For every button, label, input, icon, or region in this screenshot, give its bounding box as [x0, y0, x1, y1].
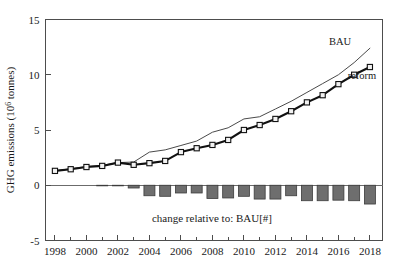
y-axis-title-tail: tonnes)	[4, 67, 17, 102]
bar-2001	[97, 185, 108, 186]
marker-reform-2001	[100, 163, 105, 168]
bar-2012	[270, 185, 281, 199]
marker-reform-2005	[163, 158, 168, 163]
x-tick-label-2014: 2014	[296, 245, 319, 257]
x-tick-label-2016: 2016	[327, 245, 350, 257]
bar-2003	[128, 185, 139, 188]
bar-2013	[286, 185, 297, 196]
chart-figure: -5051015 1998200020022004200620082010201…	[0, 0, 400, 271]
ghg-emissions-chart: -5051015 1998200020022004200620082010201…	[0, 0, 400, 271]
marker-reform-2000	[84, 164, 89, 169]
bar-2009	[223, 185, 234, 198]
bar-2002	[112, 185, 123, 186]
y-tick-label-0: 0	[34, 179, 40, 191]
x-tick-label-2012: 2012	[264, 245, 286, 257]
bar-2008	[207, 185, 218, 198]
bar-series-change-relative-to-bau	[97, 185, 376, 204]
marker-reform-2011	[257, 122, 262, 127]
y-tick-label-5: 5	[34, 124, 40, 136]
bar-2015	[317, 185, 328, 200]
marker-reform-2018	[367, 64, 372, 69]
x-tick-label-2002: 2002	[107, 245, 129, 257]
y-tick-label-15: 15	[29, 14, 41, 26]
plot-frame	[46, 20, 383, 241]
marker-reform-2014	[304, 100, 309, 105]
series-label-reform: reform	[348, 70, 377, 81]
x-tick-label-2006: 2006	[170, 245, 193, 257]
y-tick-label--5: -5	[30, 235, 40, 247]
bar-2011	[254, 185, 265, 199]
y-axis-title: GHG emissions (106 tonnes)	[4, 67, 18, 194]
bar-2014	[301, 185, 312, 200]
bar-2004	[144, 185, 155, 196]
marker-reform-2009	[226, 137, 231, 142]
bar-2005	[160, 185, 171, 196]
series-label-bau: BAU	[329, 36, 352, 47]
x-tick-label-2004: 2004	[138, 245, 161, 257]
marker-reform-2015	[320, 93, 325, 98]
bar-2006	[175, 185, 186, 193]
marker-reform-2010	[241, 127, 246, 132]
marker-reform-2003	[131, 162, 136, 167]
x-tick-label-2008: 2008	[201, 245, 224, 257]
marker-reform-2004	[147, 161, 152, 166]
x-tick-label-2000: 2000	[75, 245, 98, 257]
marker-reform-2006	[178, 150, 183, 155]
svg-text:GHG emissions (106 tonnes): GHG emissions (106 tonnes)	[4, 67, 18, 194]
bar-2016	[333, 185, 344, 200]
marker-reform-1998	[52, 168, 57, 173]
bars-annotation-label: change relative to: BAU[#]	[152, 212, 272, 224]
series-line-reform	[55, 67, 370, 171]
marker-reform-2013	[289, 109, 294, 114]
bar-2007	[191, 185, 202, 193]
marker-reform-2007	[194, 146, 199, 151]
marker-reform-2016	[336, 82, 341, 87]
x-tick-label-1998: 1998	[44, 245, 67, 257]
y-axis-title-main: GHG emissions (10	[4, 105, 17, 193]
marker-reform-1999	[68, 167, 73, 172]
y-axis: -5051015	[29, 14, 51, 247]
bar-2017	[349, 185, 360, 200]
bar-2010	[238, 185, 249, 196]
y-tick-label-10: 10	[29, 69, 41, 81]
x-tick-label-2010: 2010	[233, 245, 256, 257]
marker-reform-2008	[210, 142, 215, 147]
x-tick-label-2018: 2018	[359, 245, 382, 257]
marker-reform-2012	[273, 116, 278, 121]
x-axis: 1998200020022004200620082010201220142016…	[44, 235, 381, 257]
marker-reform-2002	[115, 160, 120, 165]
series-markers-reform	[52, 64, 372, 173]
series-line-bau	[55, 48, 370, 171]
bar-2018	[364, 185, 375, 204]
